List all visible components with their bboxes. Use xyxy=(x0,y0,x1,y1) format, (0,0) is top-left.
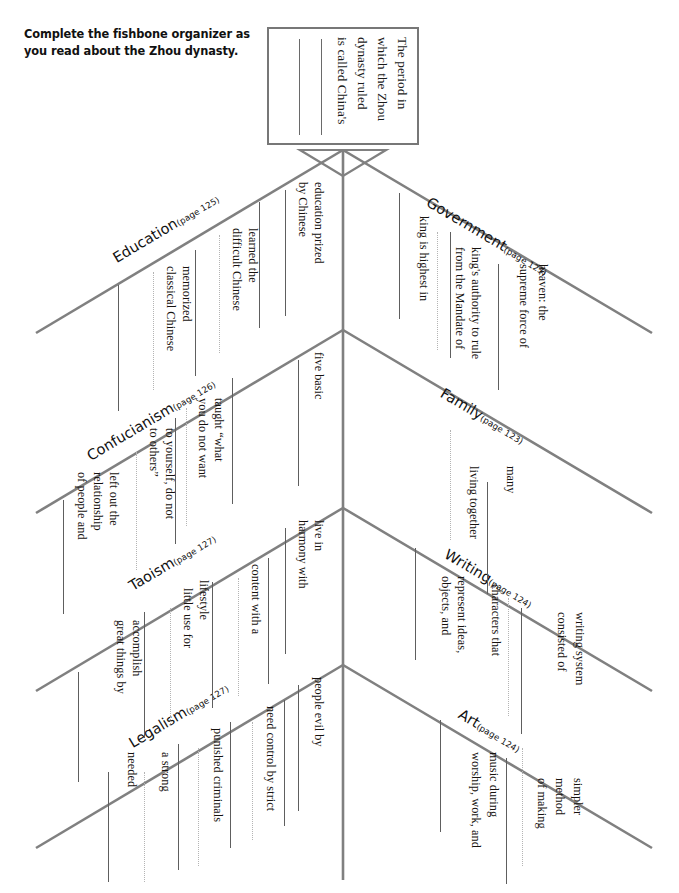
writing-answer-line-1[interactable] xyxy=(508,598,509,716)
legalism-answer-line-3[interactable] xyxy=(178,744,179,870)
writing-item-2-line-3: objects, and xyxy=(440,576,452,635)
taoism-answer-line-3[interactable] xyxy=(144,612,145,738)
education-answer-line-1b[interactable] xyxy=(219,235,220,353)
taoism-answer-line-1b[interactable] xyxy=(238,578,239,696)
writing-answer-line-3[interactable] xyxy=(415,548,416,660)
legalism-answer-line-3b[interactable] xyxy=(144,772,145,882)
legalism-answer-line-2[interactable] xyxy=(230,722,231,848)
confucianism-answer-line-2[interactable] xyxy=(175,418,176,544)
education-item-1-line-1: learned the xyxy=(247,228,259,283)
spine-item-3-line-1: live in xyxy=(313,520,325,551)
writing-item-1-line-1: writing system xyxy=(574,612,586,685)
spine-item-2-line-1: five basic xyxy=(313,352,325,399)
spine-answer-line-2[interactable] xyxy=(298,360,299,486)
education-answer-line-3[interactable] xyxy=(118,285,119,411)
spine-item-4-line-1: people evil by xyxy=(313,677,325,747)
confucianism-item-3-line-1: left out the xyxy=(108,472,120,526)
taoism-answer-line-2b[interactable] xyxy=(170,608,171,726)
confucianism-item-1-line-2: you do not want xyxy=(197,398,209,478)
spine-answer-line-1[interactable] xyxy=(285,190,286,316)
art-answer-line-1[interactable] xyxy=(522,748,523,866)
government-item-2-line-2: from the Mandate of xyxy=(454,247,466,349)
legalism-item-1-line-1: need control by strict xyxy=(265,706,277,811)
writing-answer-line-2[interactable] xyxy=(521,608,522,734)
art-item-1-line-2: method xyxy=(554,778,566,815)
confucianism-answer-line-3[interactable] xyxy=(63,500,64,614)
art-item-1-line-1: simpler xyxy=(572,778,584,815)
taoism-answer-line-1[interactable] xyxy=(268,558,269,684)
education-item-2-line-1: memorized xyxy=(181,266,193,322)
writing-item-1-line-2: consisted of xyxy=(556,612,568,672)
government-answer-line-1[interactable] xyxy=(399,193,400,319)
education-item-2-line-2: classical Chinese xyxy=(165,266,177,351)
legalism-item-2-line-1: punished criminals xyxy=(212,728,224,822)
writing-item-2-line-2: represent ideas, xyxy=(456,576,468,653)
taoism-item-3-line-2: great things by xyxy=(115,620,127,694)
spine-item-3-line-2: harmony with xyxy=(297,520,309,589)
art-answer-line-2[interactable] xyxy=(506,758,507,884)
confucianism-answer-line-2b[interactable] xyxy=(136,452,137,570)
confucianism-answer-line-1b[interactable] xyxy=(186,408,187,526)
art-item-2-line-1: music during xyxy=(488,752,500,817)
taoism-item-2-line-1: little use for xyxy=(182,588,194,648)
spine-item-1-line-1: education prized xyxy=(313,182,325,264)
fishbone-worksheet: Complete the fishbone organizer as you r… xyxy=(0,0,679,893)
confucianism-item-2-line-2: to others” xyxy=(148,428,160,477)
government-item-3-line-2: supreme force of xyxy=(518,264,530,348)
taoism-answer-line-2[interactable] xyxy=(212,582,213,708)
family-answer-line-1[interactable] xyxy=(487,482,488,594)
legalism-item-3-line-2: needed xyxy=(126,752,138,787)
education-answer-line-2b[interactable] xyxy=(153,272,154,390)
education-item-1-line-2: difficult Chinese xyxy=(231,228,243,311)
confucianism-item-3-line-2: relationship xyxy=(92,472,104,531)
family-item-1-line-1: many xyxy=(505,466,517,494)
government-answer-line-3[interactable] xyxy=(498,264,499,390)
taoism-item-1-line-1: content with a xyxy=(250,564,262,634)
spine-answer-line-4[interactable] xyxy=(298,685,299,811)
art-item-2-line-2: worship, work, and xyxy=(470,752,482,848)
spine-item-1-line-2: by Chinese xyxy=(297,182,309,237)
confucianism-item-3-line-3: of people and xyxy=(76,472,88,540)
government-answer-line-2[interactable] xyxy=(450,232,451,358)
taoism-answer-line-4[interactable] xyxy=(78,672,79,782)
education-answer-line-2[interactable] xyxy=(195,250,196,376)
education-answer-line-1[interactable] xyxy=(259,202,260,328)
family-answer-line-2[interactable] xyxy=(450,430,451,540)
legalism-answer-line-1b[interactable] xyxy=(252,722,253,840)
government-item-2-line-1: king's authority to rule xyxy=(470,247,482,359)
government-item-3-line-1: heaven: the xyxy=(537,264,549,321)
taoism-item-2-line-2: lifestyle xyxy=(198,580,210,620)
family-item-2-line-1: living together xyxy=(468,466,480,539)
legalism-answer-line-2b[interactable] xyxy=(198,748,199,866)
art-answer-line-3[interactable] xyxy=(440,720,441,832)
legalism-answer-line-1[interactable] xyxy=(284,700,285,826)
spine-answer-line-3[interactable] xyxy=(285,528,286,654)
government-answer-line-1b[interactable] xyxy=(437,232,438,350)
government-item-1-line-1: king is highest in xyxy=(418,216,430,301)
legalism-answer-line-4[interactable] xyxy=(108,772,109,882)
writing-item-2-line-1: characters that xyxy=(490,584,502,656)
confucianism-answer-line-1[interactable] xyxy=(232,378,233,504)
taoism-item-3-line-1: accomplish xyxy=(131,620,143,677)
confucianism-item-1-line-1: taught “what xyxy=(213,398,225,462)
legalism-item-3-line-1: a strong xyxy=(160,752,172,792)
art-item-1-line-3: of making xyxy=(536,778,548,829)
